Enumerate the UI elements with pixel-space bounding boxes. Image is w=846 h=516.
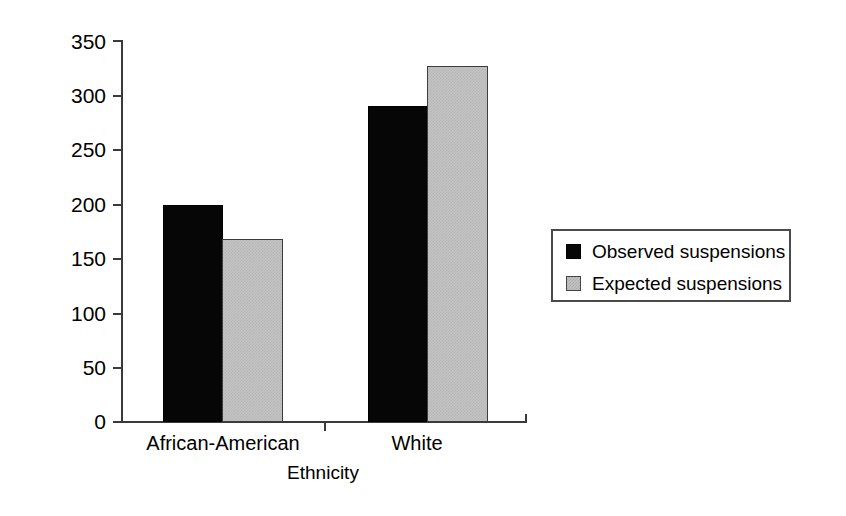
y-tick-label: 200 — [40, 194, 106, 215]
x-category-label-african-american: African-American — [123, 431, 323, 455]
y-axis-tick-labels: 350 300 250 200 150 100 50 0 — [36, 0, 106, 516]
bar-observed-african-american — [163, 205, 223, 422]
legend: Observed suspensions Expected suspension… — [551, 229, 791, 302]
y-tick-label: 100 — [40, 303, 106, 324]
x-axis-title: Ethnicity — [121, 462, 525, 484]
y-tick-label: 0 — [40, 411, 106, 432]
black-square-icon — [566, 244, 581, 259]
y-tick-label: 50 — [40, 357, 106, 378]
legend-label-expected: Expected suspensions — [592, 274, 782, 293]
x-axis-end-tick — [525, 414, 527, 423]
legend-label-observed: Observed suspensions — [592, 242, 785, 261]
y-tick-label: 250 — [40, 139, 106, 160]
y-tick-label: 350 — [40, 31, 106, 52]
bars-container — [121, 41, 525, 422]
bar-observed-white — [368, 106, 428, 422]
x-category-label-white: White — [337, 431, 497, 455]
legend-item-observed: Observed suspensions — [566, 237, 785, 265]
bar-expected-white — [427, 66, 488, 422]
y-tick-label: 150 — [40, 248, 106, 269]
x-axis-category-tick — [324, 422, 326, 431]
bar-chart-figure: Number of Suspensions 350 300 250 200 15… — [0, 0, 846, 516]
y-tick-label: 300 — [40, 85, 106, 106]
legend-item-expected: Expected suspensions — [566, 269, 782, 297]
bar-expected-african-american — [222, 239, 283, 422]
gray-square-icon — [566, 276, 581, 291]
